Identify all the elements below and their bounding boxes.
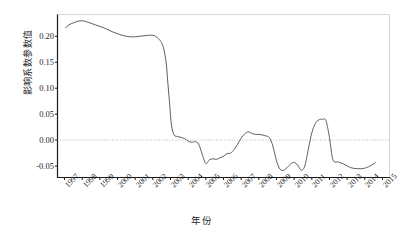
- x-tick-label: 2003: [169, 171, 187, 189]
- x-tick-label: 2004: [187, 171, 205, 189]
- x-tick-label: 2012: [328, 171, 346, 189]
- x-tick-label: 2000: [116, 171, 134, 189]
- x-axis-tick-labels: 1997199819992000200120022003200420052006…: [0, 0, 403, 236]
- x-tick-label: 2007: [240, 171, 258, 189]
- x-tick-label: 2008: [257, 171, 275, 189]
- x-tick-label: 2001: [134, 171, 152, 189]
- x-tick-label: 1998: [81, 171, 99, 189]
- chart-figure: 影响系数参数值 年份 0.200.150.100.050.00-0.05 199…: [0, 0, 403, 236]
- x-tick-label: 2014: [363, 171, 381, 189]
- x-tick-label: 2015: [381, 171, 399, 189]
- x-tick-label: 2013: [346, 171, 364, 189]
- x-tick-label: 2005: [204, 171, 222, 189]
- x-tick-label: 2011: [310, 171, 327, 188]
- x-tick-label: 2002: [151, 171, 169, 189]
- x-tick-label: 1999: [98, 171, 116, 189]
- x-tick-label: 1997: [63, 171, 81, 189]
- x-tick-label: 2010: [293, 171, 311, 189]
- x-tick-label: 2009: [275, 171, 293, 189]
- x-tick-label: 2006: [222, 171, 240, 189]
